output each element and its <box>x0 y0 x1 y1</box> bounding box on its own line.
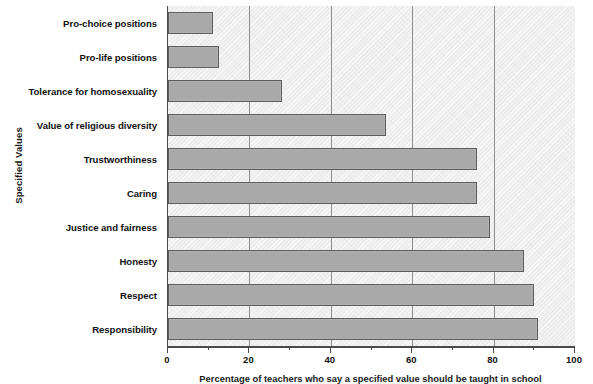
x-tick-major <box>330 346 331 353</box>
bar <box>168 318 538 340</box>
bar <box>168 250 524 272</box>
plot-area <box>167 6 575 346</box>
bar-slot <box>168 108 575 142</box>
category-label: Pro-life positions <box>0 40 163 74</box>
category-label: Respect <box>0 278 163 312</box>
x-tick-major <box>411 346 412 353</box>
bar <box>168 148 477 170</box>
x-tick-minor <box>533 346 534 350</box>
bar-slot <box>168 40 575 74</box>
category-label: Pro-choice positions <box>0 6 163 40</box>
x-tick-label: 20 <box>243 354 254 365</box>
category-label: Trustworthiness <box>0 142 163 176</box>
x-axis-title: Percentage of teachers who say a specifi… <box>167 373 574 384</box>
bar <box>168 216 490 238</box>
category-label: Honesty <box>0 244 163 278</box>
bar-chart: Specified Values Pro-choice positions Pr… <box>0 0 593 384</box>
x-tick-minor <box>371 346 372 350</box>
x-tick-minor <box>452 346 453 350</box>
category-label: Justice and fairness <box>0 210 163 244</box>
x-tick-major <box>167 346 168 353</box>
category-label: Responsibility <box>0 312 163 346</box>
bar <box>168 284 534 306</box>
bar-series <box>168 6 575 346</box>
x-tick-label: 100 <box>566 354 582 365</box>
category-label: Tolerance for homosexuality <box>0 74 163 108</box>
x-tick-label: 40 <box>325 354 336 365</box>
x-tick-minor <box>289 346 290 350</box>
bar <box>168 182 477 204</box>
category-label-column: Pro-choice positions Pro-life positions … <box>0 6 163 346</box>
bar-slot <box>168 278 575 312</box>
bar-slot <box>168 312 575 346</box>
category-label: Caring <box>0 176 163 210</box>
x-tick-major <box>574 346 575 353</box>
x-tick-major <box>493 346 494 353</box>
x-tick-major <box>248 346 249 353</box>
x-tick-label: 0 <box>164 354 169 365</box>
bar-slot <box>168 74 575 108</box>
bar <box>168 114 386 136</box>
bar-slot <box>168 6 575 40</box>
category-label: Value of religious diversity <box>0 108 163 142</box>
bar-slot <box>168 244 575 278</box>
bar-slot <box>168 142 575 176</box>
bar-slot <box>168 176 575 210</box>
bar <box>168 80 282 102</box>
x-tick-minor <box>208 346 209 350</box>
bar <box>168 46 219 68</box>
x-tick-label: 80 <box>487 354 498 365</box>
x-tick-label: 60 <box>406 354 417 365</box>
bar <box>168 12 213 34</box>
bar-slot <box>168 210 575 244</box>
